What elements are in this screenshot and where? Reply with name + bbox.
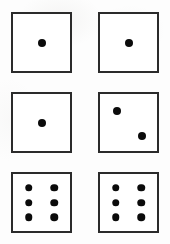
die-pip [112,184,120,192]
die-pip [137,214,145,222]
die-pip [25,214,33,222]
die-pip [38,119,46,127]
die-pip [138,132,146,140]
die-middle-right [98,92,159,153]
die-pip [137,184,145,192]
dice-board [0,0,170,244]
die-pip [25,184,33,192]
die-pip [112,199,120,207]
die-pip [137,199,145,207]
die-pip [50,184,58,192]
die-pip [112,214,120,222]
die-pip [50,214,58,222]
die-pip [50,199,58,207]
die-top-right [98,12,159,73]
die-pip [113,107,121,115]
die-pip [38,39,46,47]
die-bottom-right [98,172,159,233]
die-top-left [11,12,72,73]
die-bottom-left [11,172,72,233]
die-pip [25,199,33,207]
die-middle-left [11,92,72,153]
die-pip [125,39,133,47]
